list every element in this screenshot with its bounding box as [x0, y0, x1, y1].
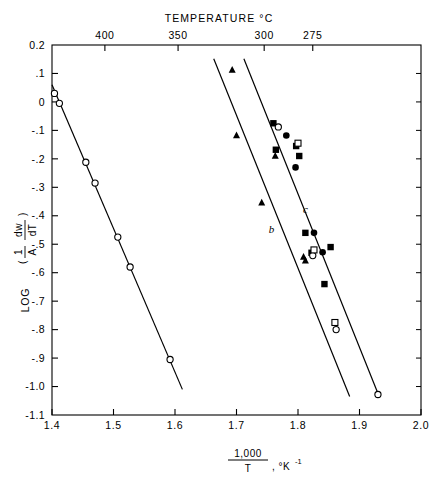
x-axis-title-exponent: -1	[295, 457, 302, 466]
scatter-plot: TEMPERATURE °C 400350300275 1.41.51.61.7…	[0, 0, 438, 484]
y-axis-title-num1: 1	[13, 249, 24, 255]
fit-line-c	[244, 59, 379, 397]
left-tick-label: -.7	[32, 295, 45, 307]
top-tick-label: 275	[303, 29, 322, 41]
left-tick-label: -.8	[32, 323, 45, 335]
data-point-c	[302, 230, 308, 236]
data-point-c-open	[275, 124, 281, 130]
data-point-c-open	[333, 327, 339, 333]
left-tick-label: -1.0	[25, 380, 45, 392]
bottom-tick-label: 1.6	[167, 419, 183, 431]
x-axis-title-numerator: 1,000	[234, 448, 262, 459]
curve-labels: bc	[269, 203, 308, 234]
data-point-a	[83, 159, 89, 165]
data-point-b-circ	[283, 132, 290, 139]
bottom-tick-label: 1.8	[290, 419, 306, 431]
y-axis-title-den1: A	[27, 248, 38, 255]
left-tick-label: -.6	[32, 266, 45, 278]
data-point-b	[258, 199, 265, 206]
data-point-a	[51, 90, 57, 96]
data-markers	[51, 66, 381, 398]
data-point-b-circ	[311, 230, 318, 237]
top-tick-label: 400	[95, 29, 114, 41]
left-tick-label: 0.2	[29, 39, 45, 51]
left-tick-label: -.2	[32, 153, 45, 165]
data-point-c-opensq	[295, 140, 301, 146]
curve-label-c: c	[303, 203, 308, 215]
data-point-b-circ	[319, 249, 326, 256]
data-point-a	[92, 180, 98, 186]
bottom-axis-ticks: 1.41.51.61.71.81.92.0	[44, 409, 429, 431]
data-point-c	[296, 153, 302, 159]
data-point-c	[321, 281, 327, 287]
data-point-a	[115, 234, 121, 240]
left-tick-label: -.1	[32, 124, 45, 136]
data-point-a	[56, 100, 62, 106]
x-axis-title-units: , °K	[272, 461, 290, 472]
top-tick-label: 300	[255, 29, 274, 41]
curve-label-b: b	[269, 223, 275, 235]
left-tick-label: -.4	[32, 209, 45, 221]
plot-frame	[52, 45, 421, 415]
left-tick-label: 0	[39, 96, 45, 108]
data-point-b-circ	[292, 164, 299, 171]
top-tick-label: 350	[168, 29, 187, 41]
data-point-c	[273, 147, 279, 153]
bottom-tick-label: 1.4	[44, 419, 60, 431]
data-point-a	[167, 356, 173, 362]
data-point-c-opensq	[311, 247, 317, 253]
bottom-tick-label: 2.0	[413, 419, 429, 431]
bottom-tick-label: 1.7	[228, 419, 244, 431]
y-axis-title-num2: dw	[13, 223, 24, 237]
top-axis-ticks: 400350300275	[95, 29, 322, 51]
y-axis-title-paren-close: )	[17, 212, 28, 216]
bottom-tick-label: 1.5	[105, 419, 121, 431]
left-tick-label: -.3	[32, 181, 45, 193]
fit-line-b	[214, 59, 350, 397]
data-point-a	[127, 264, 133, 270]
data-point-c	[327, 244, 333, 250]
data-point-b	[229, 66, 236, 73]
data-point-c-open	[375, 391, 381, 397]
left-tick-label: -1.1	[25, 409, 45, 421]
y-axis-title-paren-open: (	[17, 260, 28, 264]
left-tick-label: -.5	[32, 238, 45, 250]
right-axis-ticks	[416, 73, 421, 386]
data-point-b	[233, 131, 240, 138]
y-axis-title-den2: dT	[27, 224, 38, 237]
x-axis-title-denominator: T	[245, 463, 252, 474]
x-axis-title: 1,000 T , °K -1	[228, 448, 302, 474]
figure-container: TEMPERATURE °C 400350300275 1.41.51.61.7…	[0, 0, 438, 484]
left-tick-label: .1	[35, 67, 45, 79]
fit-lines	[52, 59, 379, 397]
bottom-tick-label: 1.9	[351, 419, 367, 431]
top-axis-title: TEMPERATURE °C	[165, 12, 274, 24]
left-tick-label: -.9	[32, 352, 45, 364]
y-axis-title-log: LOG	[19, 288, 31, 313]
data-point-c-opensq	[332, 320, 338, 326]
